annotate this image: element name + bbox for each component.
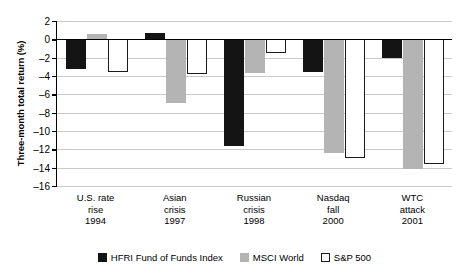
category-label-line: fall — [294, 204, 373, 216]
y-axis-tick-label: –8 — [10, 107, 50, 118]
y-axis-tick-label: –16 — [10, 181, 50, 192]
bar-group — [136, 21, 215, 186]
y-axis-tick-label: –10 — [10, 126, 50, 137]
chart-legend: HFRI Fund of Funds IndexMSCI WorldS&P 50… — [0, 252, 469, 263]
bar-sp — [345, 39, 365, 158]
category-label-line: 1997 — [135, 215, 214, 227]
bar-sp — [187, 39, 207, 74]
x-axis-category-label: Asiancrisis1997 — [135, 192, 214, 227]
plot-area: 20–2–4–6–8–10–12–14–16 — [56, 21, 452, 186]
bar-chart: Three-month total return (%) 20–2–4–6–8–… — [0, 0, 469, 277]
legend-swatch-icon — [98, 253, 107, 262]
category-label-line: U.S. rate — [56, 192, 135, 204]
category-label-line: crisis — [135, 204, 214, 216]
bar-msci — [245, 39, 265, 73]
bar-hfri — [303, 39, 323, 72]
x-axis-category-label: U.S. raterise1994 — [56, 192, 135, 227]
legend-swatch-icon — [240, 253, 249, 262]
bar-group — [57, 21, 136, 186]
zero-axis-line — [57, 39, 452, 41]
legend-item-hfri[interactable]: HFRI Fund of Funds Index — [98, 252, 223, 263]
bar-msci — [166, 39, 186, 103]
category-label-line: rise — [56, 204, 135, 216]
y-axis-tick-label: –12 — [10, 144, 50, 155]
x-axis-category-label: Nasdaqfall2000 — [294, 192, 373, 227]
category-label-line: 1998 — [214, 215, 293, 227]
category-label-line: 2001 — [373, 215, 452, 227]
gridline — [57, 186, 452, 187]
bar-hfri — [224, 39, 244, 145]
legend-swatch-icon — [321, 253, 330, 262]
y-axis-tick-label: 2 — [10, 16, 50, 27]
category-label-line: Russian — [214, 192, 293, 204]
legend-item-sp[interactable]: S&P 500 — [321, 252, 371, 263]
y-axis-tick-mark — [52, 186, 57, 187]
bar-group — [215, 21, 294, 186]
bar-sp — [108, 39, 128, 72]
y-axis-tick-label: 0 — [10, 34, 50, 45]
category-label-line: 1994 — [56, 215, 135, 227]
bar-sp — [424, 39, 444, 164]
legend-label: S&P 500 — [334, 252, 371, 263]
category-label-line: Asian — [135, 192, 214, 204]
bar-msci — [403, 39, 423, 168]
plot-inner: 20–2–4–6–8–10–12–14–16 — [57, 21, 452, 186]
category-label-line: crisis — [214, 204, 293, 216]
legend-item-msci[interactable]: MSCI World — [240, 252, 304, 263]
bar-hfri — [382, 39, 402, 57]
y-axis-tick-label: –14 — [10, 162, 50, 173]
y-axis-tick-label: –4 — [10, 71, 50, 82]
y-axis-tick-label: –6 — [10, 89, 50, 100]
bar-msci — [324, 39, 344, 153]
y-axis-tick-label: –2 — [10, 52, 50, 63]
x-axis-category-label: WTCattack2001 — [373, 192, 452, 227]
category-label-line: Nasdaq — [294, 192, 373, 204]
bar-sp — [266, 39, 286, 53]
category-label-line: attack — [373, 204, 452, 216]
category-label-line: 2000 — [294, 215, 373, 227]
bar-group — [295, 21, 374, 186]
x-axis-category-label: Russiancrisis1998 — [214, 192, 293, 227]
bar-hfri — [66, 39, 86, 68]
bar-group — [374, 21, 453, 186]
category-label-line: WTC — [373, 192, 452, 204]
legend-label: HFRI Fund of Funds Index — [111, 252, 223, 263]
legend-label: MSCI World — [253, 252, 304, 263]
